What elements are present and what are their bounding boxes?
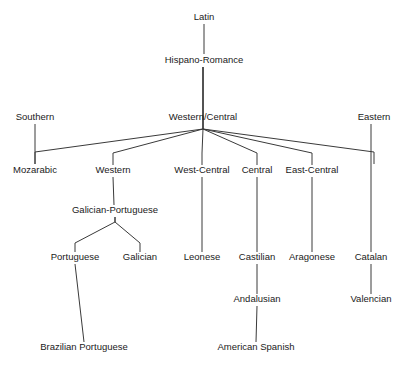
node-label-valencian: Valencian: [350, 293, 391, 304]
node-label-castilian: Castilian: [239, 251, 275, 262]
node-label-andalusian: Andalusian: [233, 293, 280, 304]
node-label-catalan: Catalan: [355, 251, 388, 262]
node-label-portuguese: Portuguese: [51, 251, 100, 262]
edge-western-central-to-west-central: [202, 129, 203, 165]
node-label-southern: Southern: [16, 111, 55, 122]
node-label-galician: Galician: [123, 251, 157, 262]
node-label-eastern: Eastern: [358, 111, 391, 122]
edge-western-central-to-central: [203, 129, 257, 165]
language-family-tree-diagram: LatinHispano-RomanceSouthernWestern/Cent…: [0, 0, 404, 368]
tree-edges: [35, 24, 374, 342]
node-label-latin: Latin: [194, 11, 215, 22]
edge-andalusian-to-american-spanish: [256, 306, 257, 342]
node-label-leonese: Leonese: [184, 251, 220, 262]
node-label-aragonese: Aragonese: [289, 251, 335, 262]
node-label-west-central: West-Central: [174, 164, 229, 175]
edge-portuguese-to-brazilian-portuguese: [75, 264, 84, 342]
node-label-american-spanish: American Spanish: [217, 341, 294, 352]
edge-western-central-to-western: [113, 129, 203, 165]
edge-galician-portuguese-to-galician: [115, 217, 140, 252]
node-label-western: Western: [95, 164, 130, 175]
node-label-galician-portuguese: Galician-Portuguese: [72, 204, 158, 215]
tree-canvas: LatinHispano-RomanceSouthernWestern/Cent…: [0, 0, 404, 368]
node-label-western-central: Western/Central: [169, 111, 237, 122]
edge-western-to-galician-portuguese: [113, 177, 114, 205]
node-label-brazilian-portuguese: Brazilian Portuguese: [40, 341, 128, 352]
node-label-central: Central: [242, 164, 273, 175]
edge-galician-portuguese-to-portuguese: [75, 217, 115, 252]
node-label-east-central: East-Central: [286, 164, 339, 175]
node-label-mozarabic: Mozarabic: [13, 164, 57, 175]
node-label-hispano-romance: Hispano-Romance: [165, 54, 244, 65]
